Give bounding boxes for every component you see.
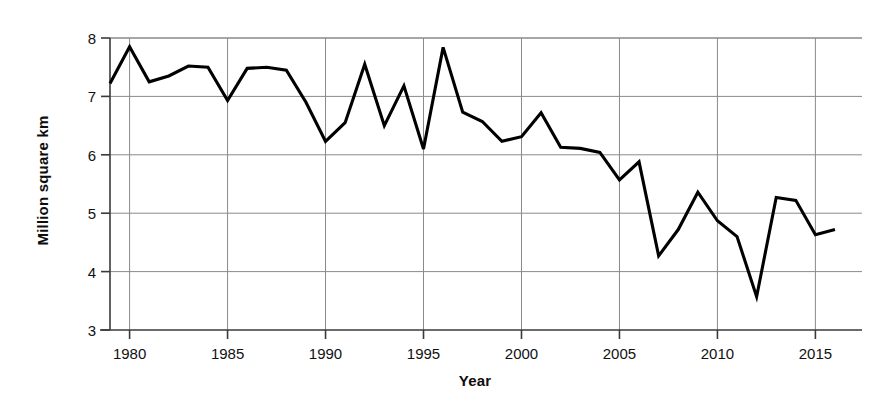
- y-tick-label: 8: [88, 30, 96, 47]
- x-tick-label: 1995: [407, 345, 440, 362]
- y-tick-label: 7: [88, 88, 96, 105]
- y-tick-label: 3: [88, 322, 96, 339]
- y-tick-label: 5: [88, 205, 96, 222]
- x-tick-label: 2000: [505, 345, 538, 362]
- y-axis-ticks: [101, 38, 110, 330]
- axis-frame: [100, 38, 862, 330]
- x-tick-label: 2005: [603, 345, 636, 362]
- y-tick-label: 4: [88, 264, 96, 281]
- x-tick-label: 1985: [211, 345, 244, 362]
- x-axis-title: Year: [459, 372, 492, 389]
- x-tick-label: 1990: [309, 345, 342, 362]
- y-axis-tick-labels: 345678: [88, 30, 96, 339]
- horizontal-gridlines: [110, 38, 862, 272]
- x-tick-label: 2010: [701, 345, 734, 362]
- x-axis-title-wrapper: Year: [110, 372, 840, 390]
- vertical-gridlines: [130, 38, 816, 330]
- data-series-line: [110, 47, 835, 297]
- y-tick-label: 6: [88, 147, 96, 164]
- x-axis-ticks: [130, 330, 816, 339]
- line-chart-plot: 345678 19801985199019952000200520102015: [0, 0, 880, 414]
- x-axis-tick-labels: 19801985199019952000200520102015: [113, 345, 832, 362]
- chart-figure: Million square km 345678 198019851990199…: [0, 0, 880, 414]
- x-tick-label: 1980: [113, 345, 146, 362]
- x-tick-label: 2015: [799, 345, 832, 362]
